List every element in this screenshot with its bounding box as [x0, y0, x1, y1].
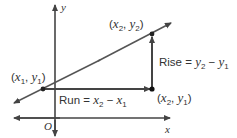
point-x2-y1 — [149, 86, 154, 91]
point-x2-y2 — [150, 32, 155, 37]
rise-formula: Rise = y2 − y1 — [159, 55, 229, 71]
slope-diagram: y x O (x1, y1) (x2, y2) (x2, y1) Rise = … — [0, 0, 237, 138]
run-formula: Run = x2 − x1 — [59, 93, 127, 109]
point-label-x2-y1: (x2, y1) — [157, 91, 192, 107]
y-axis-label: y — [61, 2, 66, 13]
x-axis-label: x — [165, 124, 170, 135]
point-label-x2-y2: (x2, y2) — [109, 17, 144, 33]
point-x1-y1 — [41, 87, 46, 92]
point-label-x1-y1: (x1, y1) — [11, 70, 46, 86]
origin-label: O — [44, 121, 52, 132]
